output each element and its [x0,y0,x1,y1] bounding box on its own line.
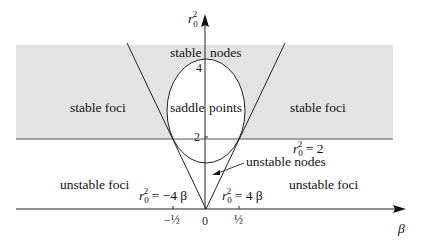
label-eq-4beta: r02 = 4 β [222,186,263,205]
label-stable-foci-right: stable foci [290,100,346,115]
label-saddle-b: points [209,100,242,115]
x-tick-label-half: ½ [234,213,243,227]
y-axis-label: r02 [188,9,198,29]
stability-diagram: −½ 0 ½ 2 4 β r02 stable foci stable foci… [0,0,421,243]
label-eq-minus-4beta: r02 = −4 β [139,186,187,205]
label-stable-nodes-a: stable [170,45,202,60]
x-axis-label: β [397,221,405,236]
label-stable-nodes-b: nodes [210,45,242,60]
unstable-nodes-pointer [218,163,244,173]
y-tick-label-4: 4 [196,61,202,75]
label-stable-foci-left: stable foci [70,100,126,115]
label-unstable-foci-right: unstable foci [289,177,359,192]
x-tick-label-minus-half: −½ [164,213,180,227]
label-eq-r2-equals-2: r02 = 2 [293,139,323,158]
y-tick-label-2: 2 [194,130,200,144]
unstable-nodes-arrow-icon [212,170,220,175]
x-tick-label-zero: 0 [202,214,208,228]
label-saddle-a: saddle [170,100,205,115]
label-unstable-foci-left: unstable foci [60,177,130,192]
label-unstable-nodes: unstable nodes [246,154,326,169]
